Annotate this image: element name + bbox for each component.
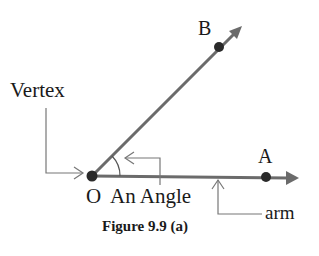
angle-arc (112, 156, 120, 176)
ray-oa (92, 176, 288, 178)
point-a (261, 172, 271, 182)
arm-pointer (218, 180, 262, 214)
point-a-label: A (258, 146, 272, 166)
point-o (87, 171, 98, 182)
angle-label: An Angle (110, 186, 191, 207)
point-b (214, 42, 224, 52)
arrowhead-a-icon (286, 171, 299, 185)
arm-label: arm (265, 203, 295, 222)
ray-ob (92, 34, 234, 176)
point-o-label: O (86, 186, 101, 207)
figure-caption: Figure 9.9 (a) (102, 219, 188, 234)
vertex-label: Vertex (10, 80, 65, 101)
vertex-pointer (46, 108, 82, 173)
point-b-label: B (198, 18, 211, 38)
